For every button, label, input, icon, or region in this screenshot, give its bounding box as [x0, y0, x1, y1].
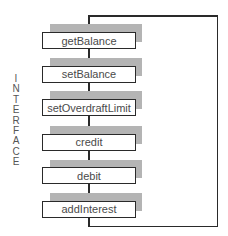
- right-connector-line: [217, 15, 219, 227]
- bottom-connector-line: [88, 226, 218, 228]
- interface-vertical-label: I N T E R F A C E: [10, 74, 22, 168]
- method-box-credit: credit: [42, 134, 136, 151]
- top-connector-line: [88, 15, 218, 17]
- method-box-getbalance: getBalance: [42, 32, 136, 49]
- method-box-addinterest: addInterest: [42, 201, 136, 218]
- interface-diagram: getBalance setBalance setOverdraftLimit …: [0, 0, 228, 236]
- method-box-setoverdraftlimit: setOverdraftLimit: [42, 99, 136, 116]
- interface-letter: E: [13, 157, 20, 167]
- method-box-setbalance: setBalance: [42, 66, 136, 83]
- method-box-debit: debit: [42, 167, 136, 184]
